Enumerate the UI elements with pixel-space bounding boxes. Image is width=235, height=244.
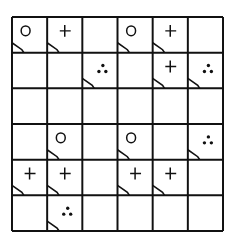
grid-cell bbox=[47, 133, 65, 160]
grid-cell bbox=[118, 168, 142, 196]
grid-cell bbox=[153, 61, 177, 89]
grid-cell bbox=[47, 168, 71, 196]
corner-notch-icon bbox=[118, 150, 130, 160]
grid-cell bbox=[188, 64, 213, 88]
corner-notch-icon bbox=[118, 43, 130, 53]
corner-notch-icon bbox=[47, 150, 59, 160]
plus-icon bbox=[165, 168, 176, 180]
corner-notch-icon bbox=[47, 43, 59, 53]
plus-icon bbox=[60, 25, 71, 37]
grid-cell bbox=[153, 25, 177, 53]
circle-icon bbox=[127, 133, 136, 143]
corner-notch-icon bbox=[153, 43, 165, 53]
three-dots-icon bbox=[203, 135, 213, 144]
grid-cell bbox=[153, 168, 177, 196]
circle-icon bbox=[127, 26, 136, 36]
grid-cell bbox=[47, 25, 71, 53]
corner-notch-icon bbox=[188, 78, 200, 88]
corner-notch-icon bbox=[12, 185, 24, 195]
corner-notch-icon bbox=[153, 78, 165, 88]
plus-icon bbox=[25, 168, 36, 180]
plus-icon bbox=[165, 25, 176, 37]
grid-cell bbox=[82, 64, 107, 88]
corner-notch-icon bbox=[153, 185, 165, 195]
corner-notch-icon bbox=[188, 150, 200, 160]
three-dots-icon bbox=[97, 64, 107, 73]
corner-notch-icon bbox=[82, 78, 94, 88]
grid-cell bbox=[118, 133, 136, 160]
plus-icon bbox=[165, 61, 176, 73]
three-dots-icon bbox=[62, 207, 72, 216]
plus-icon bbox=[60, 168, 71, 180]
grid-cell bbox=[188, 135, 213, 159]
three-dots-icon bbox=[203, 64, 213, 73]
symbol-grid bbox=[11, 16, 224, 232]
corner-notch-icon bbox=[47, 221, 59, 231]
corner-notch-icon bbox=[12, 43, 24, 53]
grid-cell bbox=[12, 168, 36, 196]
circle-icon bbox=[21, 26, 30, 36]
grid-cell bbox=[118, 26, 136, 53]
grid-cell bbox=[47, 207, 72, 231]
corner-notch-icon bbox=[47, 185, 59, 195]
circle-icon bbox=[56, 133, 65, 143]
grid-cell bbox=[12, 26, 30, 53]
plus-icon bbox=[130, 168, 141, 180]
corner-notch-icon bbox=[118, 185, 130, 195]
